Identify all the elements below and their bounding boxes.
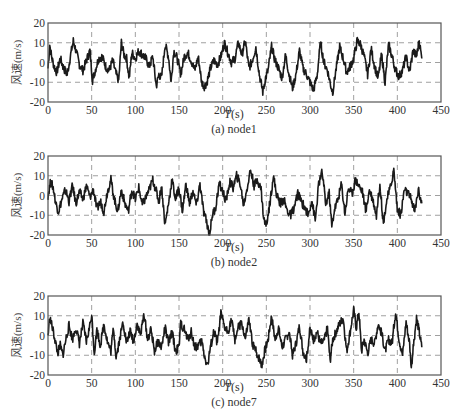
x-axis-label-unit: (s) xyxy=(231,380,244,394)
x-axis-label-symbol: T xyxy=(224,107,231,121)
y-axis-label: 风速(m/s) xyxy=(11,313,24,359)
y-tick-label: -10 xyxy=(30,209,46,221)
x-axis-label-unit: (s) xyxy=(231,240,244,254)
caption: (c) node7 xyxy=(0,395,468,410)
y-tick-label: 20 xyxy=(34,17,46,29)
y-tick-label: 10 xyxy=(34,310,46,322)
y-tick-label: 0 xyxy=(39,57,45,69)
y-tick-label: 0 xyxy=(39,330,45,342)
y-tick-label: -10 xyxy=(30,76,46,88)
panel-node7: 05010015020025030035040045020100-10-20风速… xyxy=(0,273,468,420)
series-line xyxy=(48,38,422,96)
x-axis-label-unit: (s) xyxy=(231,107,244,121)
series-line xyxy=(48,168,422,235)
y-tick-label: 10 xyxy=(34,37,46,49)
x-axis-label: T(s) xyxy=(0,240,468,255)
y-tick-label: -10 xyxy=(30,349,46,361)
panel-node1: 05010015020025030035040045020100-10-20风速… xyxy=(0,0,468,140)
y-tick-label: 20 xyxy=(34,150,46,162)
x-axis-label: T(s) xyxy=(0,107,468,122)
x-axis-label-symbol: T xyxy=(224,240,231,254)
y-axis-label: 风速(m/s) xyxy=(11,40,24,86)
x-axis-label-symbol: T xyxy=(224,380,231,394)
y-tick-label: 10 xyxy=(34,170,46,182)
caption: (b) node2 xyxy=(0,255,468,270)
x-axis-label: T(s) xyxy=(0,380,468,395)
y-tick-label: 0 xyxy=(39,190,45,202)
panel-node2: 05010015020025030035040045020100-10-20风速… xyxy=(0,133,468,273)
y-axis-label: 风速(m/s) xyxy=(11,173,24,219)
y-tick-label: 20 xyxy=(34,290,46,302)
